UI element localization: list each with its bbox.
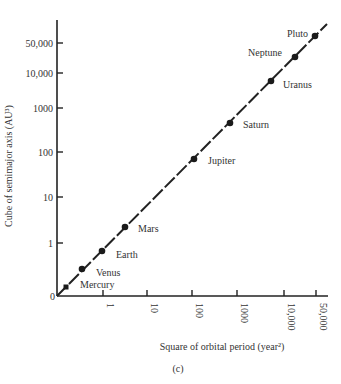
point-label-pluto: Pluto xyxy=(287,28,308,39)
x-axis-title: Square of orbital period (year²) xyxy=(160,341,285,353)
x-tick-label: 50,000 xyxy=(318,303,329,331)
y-tick-label: 100 xyxy=(38,147,53,158)
y-tick-label: 0 xyxy=(50,291,55,302)
y-tick-label: 10,000 xyxy=(26,68,54,79)
data-point-mercury xyxy=(64,285,69,290)
x-tick-label: 100 xyxy=(194,303,205,318)
x-tick-label: 1 xyxy=(105,303,116,308)
data-point-neptune xyxy=(292,54,299,61)
data-point-jupiter xyxy=(191,156,198,163)
y-tick-label: 10 xyxy=(43,192,53,203)
point-label-earth: Earth xyxy=(116,249,138,260)
data-point-uranus xyxy=(268,78,275,85)
data-points: MercuryVenusEarthMarsJupiterSaturnUranus… xyxy=(64,28,319,290)
point-label-jupiter: Jupiter xyxy=(208,155,236,166)
point-label-neptune: Neptune xyxy=(248,47,282,58)
data-point-mars xyxy=(122,224,129,231)
x-tick-label: 10,000 xyxy=(286,303,297,331)
point-label-mars: Mars xyxy=(138,223,159,234)
data-point-saturn xyxy=(227,120,234,127)
data-point-venus xyxy=(79,266,86,273)
y-axis-title: Cube of semimajor axis (AU³) xyxy=(3,105,15,227)
y-tick-label: 1000 xyxy=(33,103,53,114)
point-label-mercury: Mercury xyxy=(80,279,114,290)
data-point-earth xyxy=(99,248,106,255)
kepler-law-chart: 0110100100010,00050,000 110100100010,000… xyxy=(0,0,341,384)
y-tick-label: 1 xyxy=(48,238,53,249)
data-point-pluto xyxy=(312,33,319,40)
x-tick-label: 10 xyxy=(149,303,160,313)
y-tick-label: 50,000 xyxy=(26,38,54,49)
point-label-uranus: Uranus xyxy=(283,79,312,90)
point-label-saturn: Saturn xyxy=(243,119,269,130)
x-tick-label: 1000 xyxy=(239,303,250,323)
figure-caption: (c) xyxy=(172,363,183,375)
point-label-venus: Venus xyxy=(96,267,121,278)
